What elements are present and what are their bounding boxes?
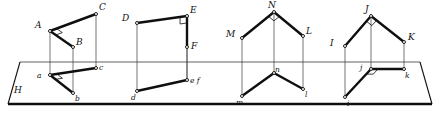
group-ijk-upper-segment-JK	[371, 16, 404, 42]
group-mnl-upper-label-L: L	[306, 27, 312, 36]
group-def-lower-label-ef: e f	[190, 77, 200, 85]
group-ijk-lower-segment-ji	[345, 69, 371, 97]
group-abc-lower-vertex-a	[49, 74, 52, 77]
group-mnl-upper-segment-MN	[242, 12, 274, 38]
plane-left-edge	[8, 62, 20, 104]
group-ijk-lower-label-i: i	[347, 100, 349, 108]
group-mnl-upper-vertex-M	[241, 37, 244, 40]
group-mnl-upper-label-M: M	[226, 30, 235, 39]
group-abc-lower-label-a: a	[37, 72, 41, 80]
group-ijk-lower-label-k: k	[405, 72, 410, 80]
group-abc-upper-segment-AB	[50, 31, 73, 47]
group-ijk-upper-label-K: K	[408, 33, 415, 42]
group-abc-upper-label-B: B	[76, 38, 83, 47]
group-abc-upper-vertex-C	[95, 13, 98, 16]
group-abc-upper-vertex-A	[49, 30, 52, 33]
group-def-upper-label-F: F	[191, 42, 197, 51]
group-ijk-lower-vertex-j	[370, 68, 373, 71]
group-abc-lower-label-c: c	[99, 64, 103, 72]
plane-right-edge	[420, 62, 432, 104]
group-def-upper-vertex-D	[136, 22, 139, 25]
group-def-lower-vertex-d	[136, 90, 139, 93]
group-def-lower-segment-def	[137, 80, 187, 91]
group-def-upper-label-E: E	[190, 6, 197, 15]
group-def-upper-vertex-F	[186, 46, 189, 49]
group-ijk-upper-segment-IJ	[345, 16, 371, 46]
group-mnl-upper-segment-NL	[274, 12, 303, 36]
group-mnl-lower-segment-nl	[274, 73, 303, 89]
group-mnl-upper-vertex-N	[273, 11, 276, 14]
group-def-lower-label-d: d	[131, 94, 136, 102]
group-mnl-lower-label-l: l	[305, 91, 307, 99]
group-mnl-lower-label-n: n	[275, 66, 280, 74]
figure-canvas	[0, 0, 438, 121]
group-abc-lower-vertex-c	[95, 67, 98, 70]
group-mnl-lower-segment-mn	[242, 73, 274, 96]
group-ijk-upper-label-J: J	[365, 5, 369, 14]
group-mnl-lower-label-m: m	[236, 99, 243, 107]
group-ijk-upper-label-I: I	[330, 39, 334, 48]
descriptive-geometry-figure: HABCabcDEFde fMNLmnlIJKijk	[0, 0, 438, 121]
group-def-upper-segment-DE	[137, 16, 187, 23]
group-abc-upper-label-A: A	[35, 21, 42, 30]
group-ijk-upper-vertex-J	[370, 15, 373, 18]
group-abc-lower-label-b: b	[75, 95, 80, 103]
plane-label-h: H	[14, 86, 22, 95]
group-mnl-upper-vertex-L	[302, 35, 305, 38]
group-mnl-upper-label-N: N	[268, 1, 276, 10]
group-def-lower-vertex-ef	[186, 79, 189, 82]
group-abc-upper-vertex-B	[72, 46, 75, 49]
group-ijk-upper-vertex-I	[344, 45, 347, 48]
group-abc-upper-label-C: C	[99, 3, 106, 12]
group-def-upper-label-D: D	[122, 14, 129, 23]
group-def-upper-vertex-E	[186, 15, 189, 18]
group-ijk-upper-vertex-K	[403, 41, 406, 44]
group-ijk-lower-label-j: j	[360, 64, 362, 72]
